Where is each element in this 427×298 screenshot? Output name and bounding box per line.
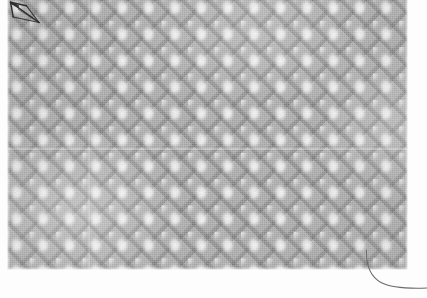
horizontal-seam: [7, 148, 408, 150]
vertical-seam: [88, 0, 90, 270]
arrow-annotation-icon: [6, 0, 48, 30]
loose-thread: [355, 248, 427, 298]
image-canvas: [0, 0, 427, 298]
fabric-swatch: [7, 0, 408, 270]
film-grain-overlay: [7, 0, 408, 270]
